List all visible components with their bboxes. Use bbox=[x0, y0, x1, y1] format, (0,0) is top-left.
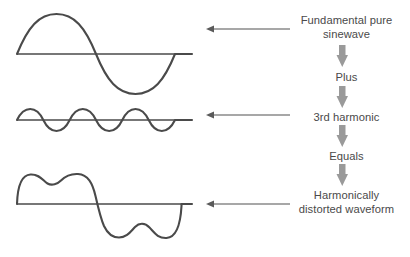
flow-label-fundamental-line1: Fundamental pure bbox=[283, 14, 410, 28]
flow-label-third-harmonic: 3rd harmonic bbox=[283, 111, 410, 125]
down-arrow-shaft bbox=[339, 45, 346, 56]
flow-label-fundamental: Fundamental pure sinewave bbox=[283, 14, 410, 41]
flow-label-fundamental-line2: sinewave bbox=[283, 28, 410, 42]
down-arrow-shaft bbox=[339, 164, 346, 175]
down-arrow-shaft bbox=[339, 125, 346, 136]
flow-label-distorted-line1: Harmonically bbox=[283, 189, 410, 203]
flow-label-distorted-line2: distorted waveform bbox=[283, 203, 410, 217]
flow-label-plus: Plus bbox=[283, 71, 410, 85]
down-arrow-shaft bbox=[339, 86, 346, 97]
flow-label-equals-text: Equals bbox=[283, 150, 410, 164]
flow-label-plus-text: Plus bbox=[283, 71, 410, 85]
flow-label-distorted: Harmonically distorted waveform bbox=[283, 189, 410, 216]
flow-label-equals: Equals bbox=[283, 150, 410, 164]
flow-label-third-harmonic-text: 3rd harmonic bbox=[283, 111, 410, 125]
